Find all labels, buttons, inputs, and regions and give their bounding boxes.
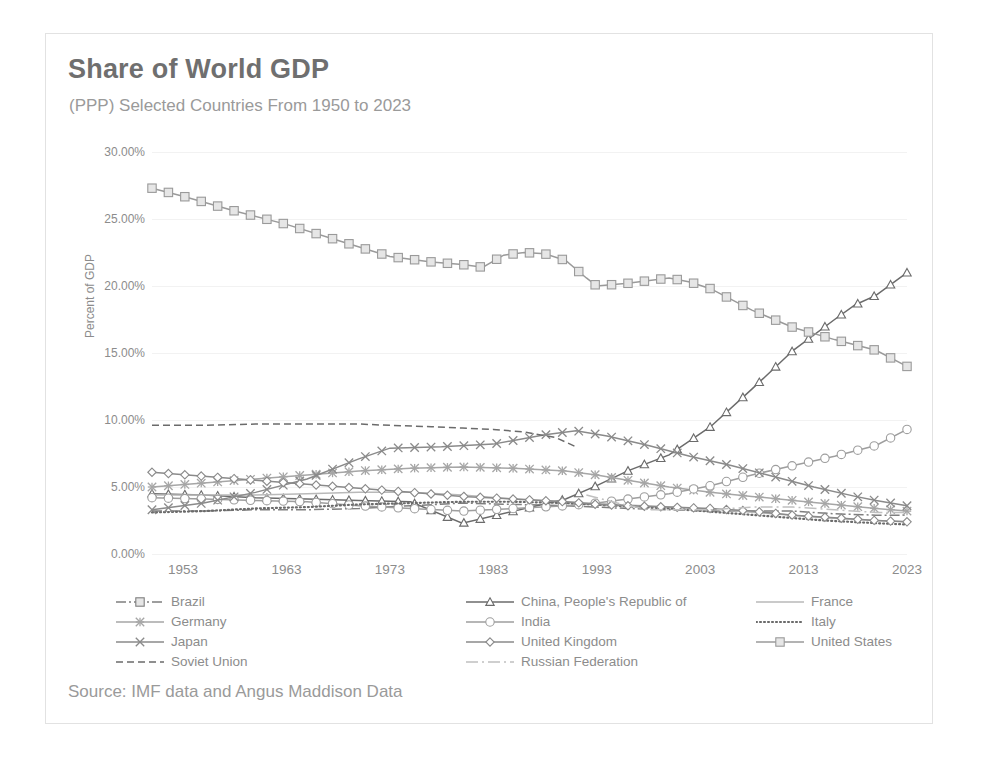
chart-card: Share of World GDP (PPP) Selected Countr…	[45, 33, 933, 724]
x-tick-label: 1973	[375, 562, 405, 577]
x-tick-label: 2023	[892, 562, 922, 577]
legend-label: Russian Federation	[521, 654, 638, 669]
legend-label: Japan	[171, 634, 208, 649]
x-tick-label: 1993	[582, 562, 612, 577]
series-lines	[152, 152, 907, 554]
legend-item[interactable]: Soviet Union	[116, 654, 466, 669]
legend-key-square-icon	[756, 636, 804, 648]
legend-label: United Kingdom	[521, 634, 617, 649]
source-note: Source: IMF data and Angus Maddison Data	[68, 682, 403, 702]
y-tick-label: 15.00%	[104, 346, 145, 360]
y-tick-label: 30.00%	[104, 145, 145, 159]
legend-key-dash-dot-icon	[466, 656, 514, 668]
legend-item[interactable]: Germany	[116, 614, 466, 629]
legend-item[interactable]: Russian Federation	[466, 654, 756, 669]
plot-area: 0.00%5.00%10.00%15.00%20.00%25.00%30.00%…	[152, 152, 907, 554]
legend-key-dash-dot-marker-icon	[116, 596, 164, 608]
legend-key-triangle-icon	[466, 596, 514, 608]
y-tick-label: 10.00%	[104, 413, 145, 427]
legend-item[interactable]: Japan	[116, 634, 466, 649]
legend-key-asterisk-icon	[116, 616, 164, 628]
y-tick-label: 0.00%	[111, 547, 145, 561]
legend-item[interactable]: China, People's Republic of	[466, 594, 756, 609]
gridline	[152, 554, 907, 555]
x-tick-label: 1953	[168, 562, 198, 577]
series-soviet-union	[152, 424, 576, 447]
legend-item[interactable]: United Kingdom	[466, 634, 756, 649]
legend-key-dashed-icon	[116, 656, 164, 668]
legend-label: India	[521, 614, 550, 629]
legend-key-dotted-icon	[756, 616, 804, 628]
legend-item[interactable]: Italy	[756, 614, 956, 629]
legend-label: China, People's Republic of	[521, 594, 686, 609]
legend-item[interactable]: France	[756, 594, 956, 609]
legend-key-x-icon	[116, 636, 164, 648]
legend-label: Germany	[171, 614, 227, 629]
legend-key-circle-icon	[466, 616, 514, 628]
legend-label: United States	[811, 634, 892, 649]
legend-item[interactable]: Brazil	[116, 594, 466, 609]
chart-legend: BrazilChina, People's Republic ofFranceG…	[116, 594, 916, 669]
x-tick-label: 1963	[271, 562, 301, 577]
x-tick-label: 2003	[685, 562, 715, 577]
chart-title: Share of World GDP	[68, 54, 329, 85]
chart-subtitle: (PPP) Selected Countries From 1950 to 20…	[69, 96, 411, 116]
y-tick-label: 5.00%	[111, 480, 145, 494]
series-china-people-s-republic-of	[148, 268, 911, 526]
legend-key-diamond-icon	[466, 636, 514, 648]
legend-item[interactable]: United States	[756, 634, 956, 649]
legend-label: Soviet Union	[171, 654, 248, 669]
y-tick-label: 25.00%	[104, 212, 145, 226]
legend-label: Brazil	[171, 594, 205, 609]
legend-label: France	[811, 594, 853, 609]
legend-item[interactable]: India	[466, 614, 756, 629]
y-axis-label: Percent of GDP	[83, 216, 97, 376]
y-tick-label: 20.00%	[104, 279, 145, 293]
series-united-states	[148, 184, 911, 371]
legend-key-line-icon	[756, 596, 804, 608]
x-tick-label: 2013	[789, 562, 819, 577]
legend-label: Italy	[811, 614, 836, 629]
x-tick-label: 1983	[478, 562, 508, 577]
